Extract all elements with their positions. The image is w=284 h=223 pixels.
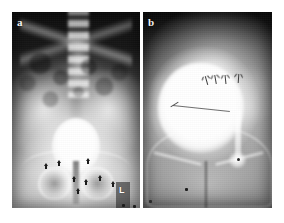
panel-label-a: a <box>17 17 23 28</box>
contrast-dark-focus-b <box>237 158 240 161</box>
radiograph-panel-b[interactable]: b <box>143 12 272 208</box>
arrowhead-6 <box>98 175 102 178</box>
midline-shadow-b <box>205 161 208 208</box>
arrowhead-4 <box>72 176 76 179</box>
marker-dot-2 <box>133 205 136 208</box>
arrowhead-5 <box>84 179 88 182</box>
radiograph-figure: L a b <box>0 0 284 223</box>
marker-dot-b-2 <box>149 200 152 203</box>
marker-dot-1 <box>122 204 125 207</box>
arrowhead-3 <box>86 158 90 161</box>
pubic-symphysis-a <box>73 161 79 204</box>
arrowhead-7 <box>76 188 80 191</box>
arrowhead-2 <box>57 160 61 163</box>
arrowhead-8 <box>111 181 115 184</box>
left-obturator-foramen-a <box>38 167 71 200</box>
panel-label-b: b <box>148 17 154 28</box>
arrowhead-1 <box>44 163 48 166</box>
marker-dot-b-1 <box>185 188 188 191</box>
pelvic-ring-b <box>146 126 272 208</box>
radiopaque-side-marker: L <box>119 186 125 195</box>
radiograph-panel-a[interactable]: L a <box>12 12 140 208</box>
